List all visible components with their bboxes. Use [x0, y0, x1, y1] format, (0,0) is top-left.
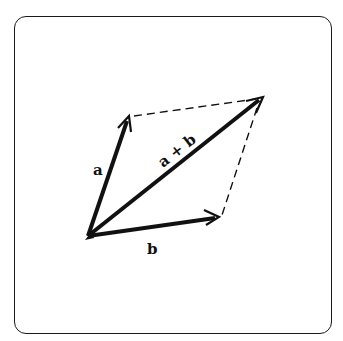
vector-sum-arrow — [88, 97, 263, 236]
label-a: a — [93, 161, 103, 179]
vector-diagram: a b a + b — [0, 0, 343, 341]
label-b: b — [147, 240, 158, 258]
vector-b-arrow — [88, 210, 219, 236]
dashed-edge-top — [134, 99, 256, 116]
